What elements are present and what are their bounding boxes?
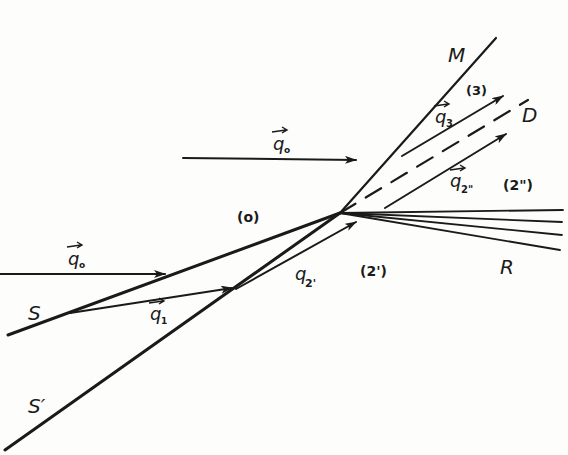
label-q1: q 1 xyxy=(149,298,167,326)
vector-q0-top xyxy=(183,158,356,160)
label-q0-top: q o xyxy=(272,127,290,155)
label-region-0: (o) xyxy=(237,209,259,225)
svg-text:q: q xyxy=(450,170,461,191)
svg-text:2': 2' xyxy=(305,277,316,290)
label-q2-double-prime: q 2" xyxy=(450,165,473,195)
shock-diagram: M (3) D (2") R (2') (o) S S′ q o q o q 1… xyxy=(0,0,568,455)
svg-text:3: 3 xyxy=(446,118,453,129)
rarefaction-fan-ray xyxy=(340,213,562,222)
svg-text:q: q xyxy=(150,303,161,324)
label-q2-prime: q 2' xyxy=(295,263,316,290)
label-q3: q 3 xyxy=(434,101,453,129)
svg-text:o: o xyxy=(284,145,290,155)
label-region-3: (3) xyxy=(466,83,487,98)
svg-text:o: o xyxy=(79,260,85,270)
svg-text:2": 2" xyxy=(461,184,473,195)
svg-text:q: q xyxy=(68,248,79,269)
shock-line-S-prime xyxy=(5,213,340,450)
label-S-prime: S′ xyxy=(28,394,46,418)
svg-text:1: 1 xyxy=(161,316,167,326)
label-M: M xyxy=(448,43,465,67)
label-region-2prime: (2') xyxy=(360,263,387,279)
svg-text:q: q xyxy=(273,133,284,154)
label-D: D xyxy=(522,103,537,127)
rarefaction-fan-ray xyxy=(340,210,563,213)
label-q0-left: q o xyxy=(67,242,85,270)
vector-q2-double-prime xyxy=(385,134,506,208)
slip-line-D xyxy=(340,100,528,213)
svg-text:q: q xyxy=(435,106,446,127)
label-S: S xyxy=(28,301,41,325)
label-R: R xyxy=(500,255,514,279)
label-region-2dprime: (2") xyxy=(503,177,533,193)
